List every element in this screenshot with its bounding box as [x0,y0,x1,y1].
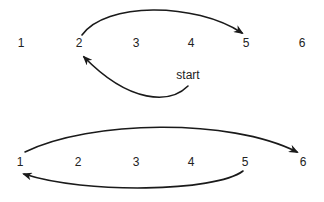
bottom-position-2: 2 [75,155,82,169]
bottom-position-5: 5 [242,155,249,169]
start-label: start [176,68,200,82]
bottom-sequence: 1 2 3 4 5 6 [17,127,307,188]
top-position-4: 4 [188,36,195,50]
top-position-5: 5 [243,36,250,50]
top-position-2: 2 [76,36,83,50]
bottom-position-4: 4 [188,155,195,169]
bottom-position-3: 3 [133,155,140,169]
top-position-3: 3 [133,36,140,50]
bottom-position-1: 1 [17,155,24,169]
arrow-start-to-2 [84,57,188,97]
bottom-position-6: 6 [300,155,307,169]
top-sequence: 1 2 3 4 5 6 start [18,10,306,97]
arrow-2-to-5 [82,10,242,35]
top-position-1: 1 [18,36,25,50]
jump-sequence-diagram: 1 2 3 4 5 6 start 1 2 3 4 5 6 [0,0,324,202]
arrow-1-to-6 [25,127,297,152]
arrow-5-to-1 [24,171,243,188]
top-position-6: 6 [299,36,306,50]
